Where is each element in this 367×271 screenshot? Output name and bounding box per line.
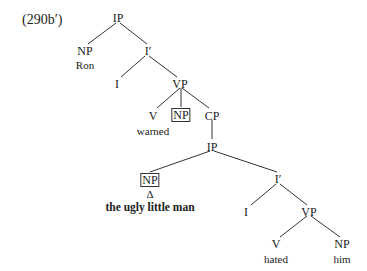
node-ip-root: IP <box>113 12 124 24</box>
node-np-object-boxed: NP <box>171 108 190 122</box>
word-ron: Ron <box>76 59 94 71</box>
word-warned: warned <box>137 125 169 137</box>
node-ip-2: IP <box>207 141 218 153</box>
tree-branches <box>0 0 367 271</box>
node-v-2: V <box>272 238 281 250</box>
node-ibar-2: I′ <box>275 173 282 185</box>
node-vp-1: VP <box>172 78 187 90</box>
node-np-subject: NP <box>77 45 92 57</box>
node-i-1: I <box>115 78 119 90</box>
node-cp: CP <box>205 110 220 122</box>
word-him: him <box>333 253 350 265</box>
node-np-2-boxed: NP <box>140 173 159 187</box>
delta-symbol: Δ <box>146 188 153 200</box>
word-hated: hated <box>264 253 288 265</box>
node-v-1: V <box>149 110 158 122</box>
node-ibar-1: I′ <box>145 45 152 57</box>
node-vp-2: VP <box>301 206 316 218</box>
node-np-3: NP <box>334 238 349 250</box>
phrase-the-ugly-little-man: the ugly little man <box>105 201 194 213</box>
node-i-2: I <box>244 206 248 218</box>
